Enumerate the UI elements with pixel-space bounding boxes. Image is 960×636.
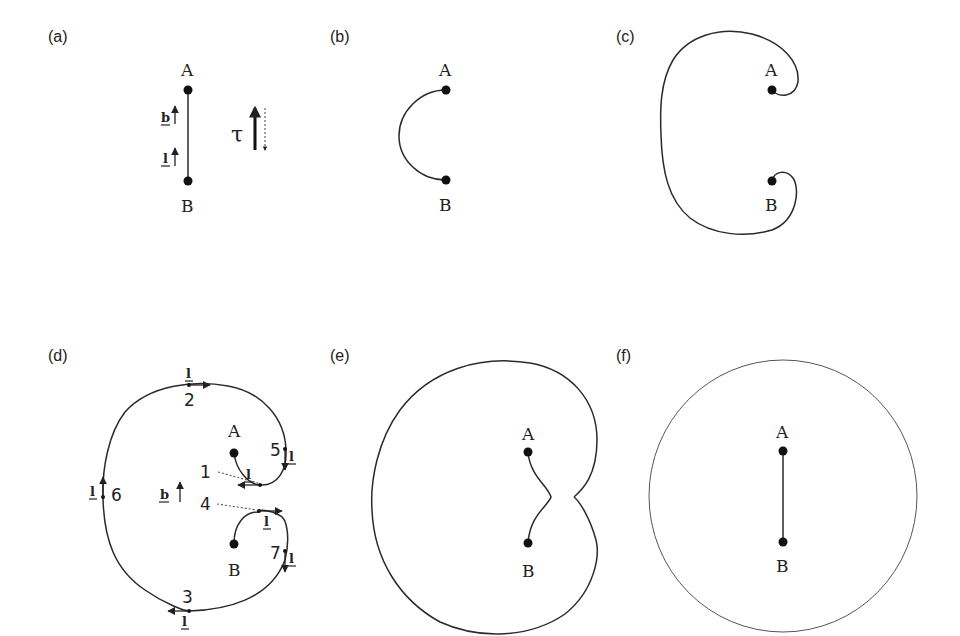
panel-label-d: (d)	[48, 347, 68, 364]
tangent-label-2: l	[186, 366, 191, 381]
point-label-6: 6	[111, 485, 122, 505]
bowed-dislocation	[399, 90, 446, 180]
node-label-a: A	[775, 422, 789, 442]
panel-label-b: (b)	[330, 28, 350, 45]
pinching-outer-loop	[372, 361, 597, 634]
restored-segment	[528, 452, 551, 543]
pinning-point-a	[442, 86, 451, 95]
point-label-2: 2	[184, 390, 195, 410]
tangent-label-3: l	[182, 614, 187, 629]
frank-read-source-diagram: (a) A B b l τ (b) A B (c) A B	[0, 0, 960, 636]
node-label-a: A	[521, 424, 535, 444]
point-label-3: 3	[182, 587, 193, 607]
panel-f: (f) A B	[616, 347, 917, 632]
burgers-vector-label: b	[161, 110, 170, 125]
leader-line-4	[217, 504, 257, 510]
point-label-4: 4	[200, 494, 211, 514]
point-label-7: 7	[270, 543, 281, 563]
node-label-a: A	[438, 60, 452, 80]
panel-c: (c) A B	[616, 28, 798, 234]
pinning-point-a	[184, 86, 193, 95]
node-label-b: B	[181, 196, 194, 216]
expanded-dislocation-loop	[661, 31, 799, 234]
panel-e: (e) A B	[330, 347, 597, 634]
node-label-b: B	[522, 561, 535, 581]
panel-label-c: (c)	[616, 28, 635, 45]
leader-line-1	[218, 472, 258, 483]
panel-a: (a) A B b l τ	[48, 28, 265, 216]
tangent-label-6: l	[90, 484, 95, 499]
pinning-point-b	[442, 176, 451, 185]
node-label-b: B	[776, 556, 789, 576]
node-label-b: B	[228, 560, 241, 580]
pinning-point-a	[524, 448, 533, 457]
line-direction-label: l	[163, 151, 168, 166]
node-label-a: A	[227, 421, 241, 441]
node-label-b: B	[439, 195, 452, 215]
pinning-point-a	[768, 86, 777, 95]
pinning-point-a	[230, 449, 239, 458]
shear-stress-symbol: τ	[231, 122, 243, 147]
point-label-5: 5	[270, 440, 281, 460]
burgers-vector-label: b	[160, 487, 169, 502]
pinning-point-b	[184, 177, 193, 186]
panel-label-e: (e)	[330, 347, 350, 364]
pinning-point-b	[768, 177, 777, 186]
node-label-a: A	[764, 60, 778, 80]
node-label-b: B	[765, 195, 778, 215]
pinning-point-a	[779, 447, 788, 456]
dislocation-loop-with-segments	[103, 384, 288, 611]
panel-label-f: (f)	[616, 347, 631, 364]
pinning-point-b	[524, 539, 533, 548]
node-label-a: A	[180, 60, 194, 80]
panel-b: (b) A B	[330, 28, 452, 215]
tangent-label-5: l	[289, 449, 294, 464]
pinning-point-b	[230, 540, 239, 549]
tangent-label-4: l	[264, 514, 269, 529]
point-label-1: 1	[200, 462, 211, 482]
panel-label-a: (a)	[48, 28, 68, 45]
tangent-label-7: l	[289, 551, 294, 566]
tangent-label-1: l	[246, 467, 251, 482]
panel-d: (d) A B 2 1 4 5 6 3 7 l	[48, 347, 296, 629]
pinning-point-b	[779, 538, 788, 547]
